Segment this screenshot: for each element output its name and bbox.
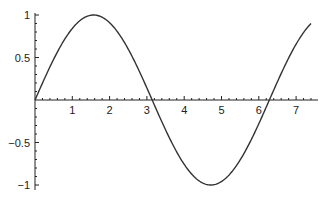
y-axis: 10.5−0.5−1	[8, 9, 39, 191]
y-tick-label: 1	[24, 9, 30, 21]
x-tick-label: 2	[107, 104, 113, 116]
x-tick-label: 7	[293, 104, 299, 116]
x-axis: 1234567	[35, 96, 318, 116]
y-axis-tick-labels: 10.5−0.5−1	[8, 9, 30, 191]
x-tick-label: 5	[218, 104, 224, 116]
x-tick-label: 4	[181, 104, 187, 116]
x-axis-major-ticks	[72, 96, 296, 100]
x-tick-label: 1	[69, 104, 75, 116]
y-tick-label: 0.5	[15, 52, 30, 64]
sine-plot: 1234567 10.5−0.5−1	[0, 0, 329, 201]
y-tick-label: −0.5	[8, 137, 30, 149]
x-tick-label: 3	[144, 104, 150, 116]
x-tick-label: 6	[256, 104, 262, 116]
y-tick-label: −1	[17, 179, 30, 191]
